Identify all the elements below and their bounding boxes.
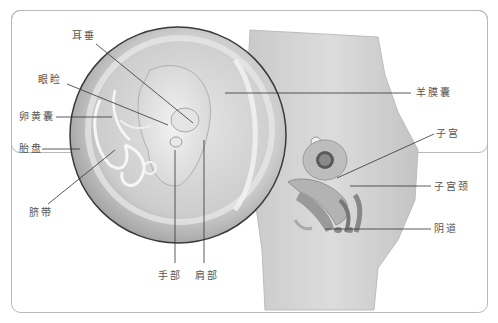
label-uterus: 子宫 xyxy=(436,128,460,140)
label-umbilical-cord: 脐带 xyxy=(29,207,53,219)
label-vagina: 阴道 xyxy=(434,223,458,235)
label-amniotic-sac: 羊膜囊 xyxy=(416,87,452,99)
anatomy-illustration xyxy=(0,0,498,323)
label-shoulder: 肩部 xyxy=(195,270,219,282)
magnified-amniotic-view xyxy=(70,27,286,243)
label-earlobe: 耳垂 xyxy=(72,30,96,42)
label-placenta: 胎盘 xyxy=(19,143,43,155)
label-eye-socket: 眼睑 xyxy=(38,74,62,86)
label-hand: 手部 xyxy=(158,270,182,282)
label-yolk-sac: 卵黄囊 xyxy=(19,111,55,123)
label-cervix: 子宫颈 xyxy=(434,181,470,193)
